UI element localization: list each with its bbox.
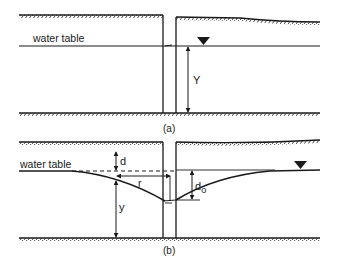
water-table-marker-icon <box>197 37 210 45</box>
panel-b: water table d r y do (b) <box>19 140 320 256</box>
water-table-label: water table <box>32 32 85 44</box>
well-drawdown-label: do <box>195 180 206 195</box>
height-label: Y <box>193 74 201 86</box>
ground-surface-left <box>19 15 163 18</box>
ground-surface-left <box>19 142 163 145</box>
impermeable-base <box>19 238 320 241</box>
radius-label: r <box>138 177 142 189</box>
water-table-marker-icon <box>294 161 307 169</box>
panel-b-caption: (b) <box>163 245 175 256</box>
ground-surface-right <box>176 140 320 146</box>
well-casing <box>163 15 176 113</box>
water-table-label: water table <box>19 158 72 170</box>
well-drawdown-diagram: water table Y (a) <box>0 0 342 270</box>
ground-surface-right <box>176 17 320 25</box>
well-casing <box>163 142 176 238</box>
panel-a-caption: (a) <box>163 123 175 134</box>
panel-a: water table Y (a) <box>19 15 320 134</box>
drawdown-label: d <box>120 155 126 167</box>
impermeable-base <box>19 113 320 116</box>
height-label: y <box>119 201 125 213</box>
